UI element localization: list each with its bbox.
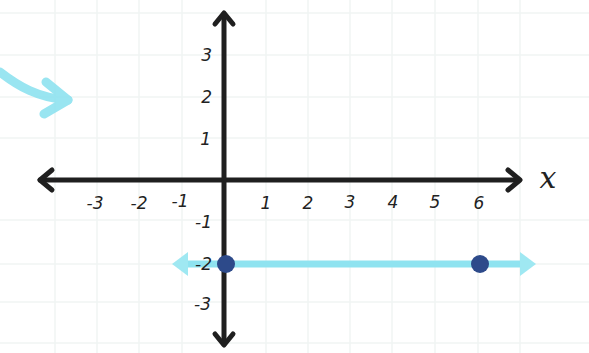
y-tick: 2 (201, 87, 212, 107)
x-axis-label: x (540, 160, 557, 195)
x-tick: 2 (303, 193, 314, 213)
x-tick: 3 (345, 192, 356, 212)
x-tick: 6 (474, 193, 485, 213)
y-tick: -1 (195, 212, 212, 232)
point-0-neg2 (217, 255, 235, 273)
decorative-arrow-icon (0, 72, 68, 114)
x-tick: -1 (172, 191, 189, 211)
x-tick: 4 (388, 192, 399, 212)
y-tick: 1 (200, 129, 211, 149)
point-6-neg2 (471, 255, 489, 273)
coordinate-plane: -3 -2 -1 1 2 3 4 5 6 3 2 1 -1 -2 -3 x (0, 0, 589, 353)
y-tick: 3 (201, 45, 212, 65)
x-tick: 1 (261, 193, 272, 213)
x-tick: -2 (131, 193, 148, 213)
x-tick-labels: -3 -2 -1 1 2 3 4 5 6 (87, 191, 485, 213)
y-tick: -2 (195, 254, 212, 274)
x-axis (40, 170, 520, 190)
x-tick: -3 (87, 193, 104, 213)
grid (0, 0, 589, 353)
x-tick: 5 (430, 192, 441, 212)
y-tick: -3 (194, 294, 211, 314)
